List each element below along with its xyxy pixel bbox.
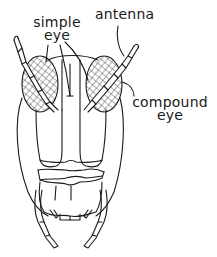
label-simple-eye-line2: eye: [30, 29, 84, 42]
label-simple-eye: simple eye: [30, 16, 84, 42]
label-antenna: antenna: [95, 8, 167, 21]
antenna-leader: [117, 26, 124, 56]
label-compound-eye-line2: eye: [126, 109, 214, 122]
simple-eye-leader-right: [65, 42, 88, 80]
label-antenna-text: antenna: [95, 8, 167, 21]
labrum: [39, 182, 102, 220]
label-compound-eye: compound eye: [126, 96, 214, 122]
clypeus: [38, 169, 104, 185]
grasshopper-head-diagram: simple eye antenna compound eye: [0, 0, 217, 257]
